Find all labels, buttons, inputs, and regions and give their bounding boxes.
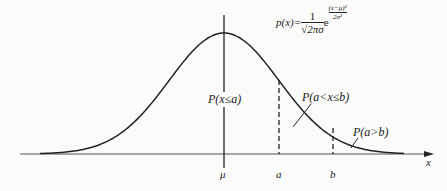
exp-numerator: (x−μ)² <box>329 4 347 13</box>
formula-exponent: (x−μ)²2σ² <box>329 4 347 21</box>
label-p-a-gt-b: P(a>b) <box>353 125 388 140</box>
coef-denominator: √2πσ <box>301 23 323 36</box>
label-p-x-le-a: P(x≤a) <box>208 92 241 107</box>
tick-mu: μ <box>220 168 226 180</box>
tick-b: b <box>330 168 336 180</box>
density-formula: p(x)=1√2πσe(x−μ)²2σ² <box>276 10 347 36</box>
exp-denominator: 2σ² <box>329 13 347 21</box>
axis-x-label: x <box>426 156 431 168</box>
leader-p-a-b <box>293 104 311 127</box>
coef-numerator: 1 <box>301 10 323 23</box>
formula-coefficient: 1√2πσ <box>301 10 323 36</box>
tick-a: a <box>276 168 282 180</box>
formula-lhs: p(x)= <box>276 16 301 28</box>
label-p-a-lt-x-le-b: P(a<x≤b) <box>302 90 349 105</box>
